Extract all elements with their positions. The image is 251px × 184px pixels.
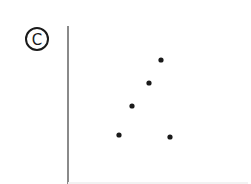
- data-point: [116, 132, 121, 137]
- panel-label: C: [32, 31, 42, 49]
- data-points: [116, 57, 172, 139]
- data-point: [146, 80, 151, 85]
- data-point: [158, 57, 163, 62]
- panel-label-c-icon: C: [24, 26, 50, 52]
- data-point: [129, 103, 134, 108]
- data-point: [167, 134, 172, 139]
- bottom-edge: [68, 182, 248, 184]
